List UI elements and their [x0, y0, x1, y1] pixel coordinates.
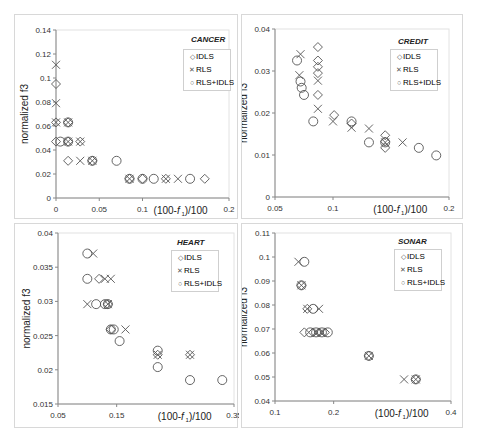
x-axis-label: (100-f 1)/100	[375, 408, 429, 420]
y-tick-label: 0.06	[254, 349, 270, 358]
chart-cancer: 00.020.040.060.080.10.120.1400.050.10.2(…	[15, 15, 239, 220]
diamond-marker	[381, 143, 390, 152]
circle-marker	[323, 328, 332, 337]
x-tick-label: 0.1	[327, 204, 339, 213]
x-marker	[162, 175, 170, 183]
x-marker	[76, 138, 84, 146]
y-axis-label: normalized f3	[21, 288, 32, 348]
legend-title: CANCER	[191, 35, 225, 44]
x-marker	[121, 325, 129, 333]
legend-item-rls: ✕RLS	[395, 65, 419, 74]
x-marker	[365, 125, 373, 133]
circle-marker	[186, 174, 195, 183]
diamond-marker	[64, 156, 73, 165]
x-marker	[126, 175, 134, 183]
x-marker-icon: ✕	[188, 66, 196, 74]
y-tick-label: 0.06	[35, 122, 51, 131]
circle-marker	[112, 156, 121, 165]
legend-item-idls: ◇IDLS	[395, 52, 421, 61]
legend-title: HEART	[177, 238, 204, 247]
circle-marker	[115, 337, 124, 346]
x-tick-label: 0.05	[267, 204, 283, 213]
legend-title: SONAR	[398, 237, 427, 246]
diamond-marker	[313, 69, 322, 78]
y-axis-label: normalized f3	[242, 83, 249, 143]
x-tick-label: 0.2	[223, 205, 235, 214]
circle-marker	[364, 138, 373, 147]
x-marker	[412, 375, 420, 383]
circle-marker	[300, 257, 309, 266]
diamond-marker	[381, 131, 390, 140]
legend-item-idls: ◇IDLS	[188, 52, 214, 61]
legend-item-rls-idls: ○RLS+IDLS	[395, 78, 441, 87]
x-marker	[83, 300, 91, 308]
legend-item-rls-idls: ○RLS+IDLS	[399, 278, 445, 287]
chart-panel-sonar: 0.040.050.060.070.080.090.10.110.10.20.4…	[241, 223, 463, 428]
circle-marker	[83, 274, 92, 283]
x-axis-label: (100-f 1)/100	[154, 205, 208, 217]
chart-credit: 00.010.020.030.040.050.10.2(100-f 1)/100…	[242, 15, 464, 220]
legend-item-rls: ✕RLS	[176, 266, 200, 275]
y-tick-label: 0.04	[254, 25, 270, 34]
circle-marker	[153, 363, 162, 372]
x-marker	[174, 175, 182, 183]
x-tick-label: 0.05	[91, 205, 107, 214]
y-tick-label: 0.03	[37, 297, 53, 306]
x-tick-label: 0.05	[50, 411, 66, 420]
y-tick-label: 0.14	[35, 26, 51, 35]
circle-icon: ○	[176, 280, 184, 287]
circle-icon: ○	[399, 279, 407, 286]
legend: ◇IDLS ✕RLS ○RLS+IDLS	[394, 249, 442, 291]
y-tick-label: 0.035	[33, 263, 54, 272]
circle-marker	[138, 174, 147, 183]
diamond-marker	[330, 111, 339, 120]
chart-panel-heart: 0.0150.020.0250.030.0350.040.050.150.35(…	[14, 223, 238, 428]
y-tick-label: 0.04	[35, 146, 51, 155]
x-marker	[295, 71, 303, 79]
y-tick-label: 0.08	[254, 301, 270, 310]
legend: ◇IDLS ✕RLS ○RLS+IDLS	[183, 49, 231, 91]
x-marker	[64, 118, 72, 126]
diamond-marker	[381, 137, 390, 146]
x-tick-label: 0.1	[137, 205, 149, 214]
circle-marker	[309, 117, 318, 126]
circle-marker	[432, 151, 441, 160]
x-marker	[365, 352, 373, 360]
diamond-marker	[200, 174, 209, 183]
circle-marker	[309, 304, 318, 313]
diamond-icon: ◇	[395, 53, 403, 61]
circle-marker	[92, 300, 101, 309]
circle-icon: ○	[395, 79, 403, 86]
y-tick-label: 0.12	[35, 50, 51, 59]
legend-item-rls-idls: ○RLS+IDLS	[188, 78, 234, 87]
x-marker	[400, 375, 408, 383]
legend-item-rls: ✕RLS	[188, 65, 212, 74]
y-tick-label: 0.01	[254, 151, 270, 160]
legend: ◇IDLS ✕RLS ○RLS+IDLS	[390, 49, 438, 91]
y-tick-label: 0.1	[259, 253, 271, 262]
y-tick-label: 0.04	[37, 229, 53, 238]
x-marker	[88, 157, 96, 165]
x-tick-label: 0.2	[328, 408, 340, 417]
x-marker	[297, 281, 305, 289]
circle-marker	[414, 143, 423, 152]
legend-item-rls: ✕RLS	[399, 265, 423, 274]
y-tick-label: 0.08	[35, 98, 51, 107]
x-marker	[314, 105, 322, 113]
x-axis-label: (100-f 1)/100	[373, 204, 427, 216]
y-tick-label: 0.11	[255, 229, 271, 238]
legend-item-idls: ◇IDLS	[176, 253, 202, 262]
x-tick-label: 0.2	[443, 204, 455, 213]
x-tick-label: 0.4	[445, 408, 457, 417]
y-tick-label: 0.04	[254, 397, 270, 406]
x-marker-icon: ✕	[399, 266, 407, 274]
y-tick-label: 0.015	[33, 400, 54, 409]
x-marker	[107, 275, 115, 283]
circle-marker	[347, 117, 356, 126]
x-marker	[399, 138, 407, 146]
diamond-marker	[347, 119, 356, 128]
x-marker-icon: ✕	[176, 267, 184, 275]
y-axis-label: normalized f3	[242, 287, 249, 347]
diamond-marker	[313, 43, 322, 52]
x-marker	[186, 351, 194, 359]
